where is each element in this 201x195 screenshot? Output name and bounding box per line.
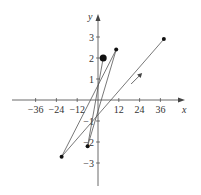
start-point-marker (100, 55, 107, 62)
y-axis-label: y (87, 11, 93, 22)
y-tick-label: 3 (89, 32, 94, 43)
x-tick-label: 36 (155, 104, 165, 115)
curve (62, 39, 164, 157)
x-tick-label: −24 (49, 104, 65, 115)
point-marker (114, 48, 118, 52)
x-tick-label: 12 (114, 104, 124, 115)
y-tick-label: 1 (89, 74, 94, 85)
y-axis-arrow-icon (96, 14, 101, 21)
x-axis-label: x (181, 104, 187, 115)
x-tick-label: 24 (135, 104, 145, 115)
curve-line (62, 39, 164, 157)
point-marker (86, 144, 90, 148)
point-marker (60, 155, 64, 159)
parametric-plot: xy −36−24−12122436−3−2−1123 (0, 0, 201, 195)
y-tick-label: −3 (83, 158, 94, 169)
x-tick-label: −12 (69, 104, 85, 115)
x-tick-label: −36 (28, 104, 44, 115)
x-axis-arrow-icon (178, 98, 185, 103)
point-marker (162, 37, 166, 41)
y-tick-label: 2 (89, 53, 94, 64)
direction-arrow-icon (131, 75, 140, 84)
